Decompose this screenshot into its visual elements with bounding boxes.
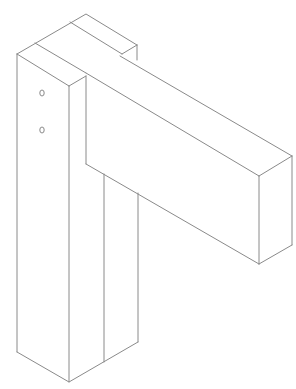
- hole-2: [40, 127, 44, 133]
- top-surface: [17, 14, 137, 86]
- holes: [40, 90, 44, 133]
- horizontal-beam: [86, 56, 292, 264]
- joint-drawing: [0, 0, 296, 389]
- diagram-canvas: Isometric post and beam joint: [0, 0, 296, 389]
- hole-1: [40, 90, 44, 96]
- vertical-post: [17, 45, 138, 382]
